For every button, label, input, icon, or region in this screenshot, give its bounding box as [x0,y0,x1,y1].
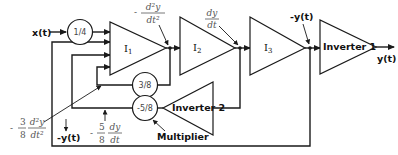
svg-text:d²y: d²y [146,2,161,12]
signal-label-fb-58: - 5 8 dy dt [90,110,122,145]
gain-label: -5/8 [137,104,153,113]
svg-text:3: 3 [20,117,26,127]
svg-text:-y(t): -y(t) [290,11,313,22]
gain-label: 3/8 [139,81,152,90]
inverter-1: Inverter 1 [320,20,376,74]
svg-text:8: 8 [20,130,26,140]
svg-text:-y(t): -y(t) [57,132,80,143]
integrator-i1: I1 [110,22,166,75]
multiplier-3-8: 3/8 [133,73,158,98]
i1-to-gain38-wire [158,48,170,85]
inverter-label: Inverter 1 [323,41,376,52]
svg-text:-: - [10,123,13,133]
svg-text:8: 8 [99,135,105,145]
input-label: x(t) [32,27,51,38]
gain-label: 1/4 [74,28,87,37]
svg-text:dt: dt [207,20,217,30]
svg-text:dt²: dt² [147,15,160,25]
junction-dot [308,46,312,50]
inverter-2: Inverter 2 [163,82,225,135]
signal-label-fb-outer: -y(t) [57,119,80,143]
junction-dot [238,46,242,50]
svg-text:Multiplier: Multiplier [157,131,209,142]
output-label: y(t) [377,53,396,64]
svg-text:d²y: d²y [30,117,45,127]
svg-text:dt²: dt² [31,130,44,140]
svg-text:dt: dt [110,135,120,145]
svg-text:dy: dy [207,8,219,18]
integrator-i3: I3 [250,17,305,75]
multiplier-neg-5-8: -5/8 [133,96,158,121]
signal-label-i3-out: -y(t) [290,11,313,44]
svg-text:-: - [134,7,137,17]
analog-computer-diagram: 1/4 I1 I2 I3 Inverter 1 Inverter 2 3/8 -… [0,0,398,155]
junction-dot [168,46,172,50]
signal-label-fb-38: - 3 8 d²y dt² [10,86,101,140]
inverter-label: Inverter 2 [172,102,225,113]
multiplier-1-4: 1/4 [68,20,93,45]
svg-text:dy: dy [110,122,122,132]
svg-text:5: 5 [99,122,105,132]
svg-text:-: - [90,128,93,138]
